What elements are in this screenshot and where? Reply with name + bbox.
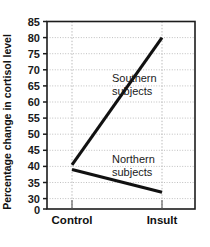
southern-label-line1: Southern	[112, 72, 157, 84]
xtick-label-insult: Insult	[147, 214, 178, 226]
ytick-label-45: 45	[28, 144, 40, 156]
ytick-label-75: 75	[28, 48, 40, 60]
ytick-label-70: 70	[28, 64, 40, 76]
northern-label-line1: Northern	[112, 153, 155, 165]
southern-subjects-annotation: Southern subjects	[112, 72, 157, 97]
ytick-label-40: 40	[28, 160, 40, 172]
ytick-label-zero: 0	[34, 204, 40, 216]
cortisol-line-chart: Percentage change in cortisol level	[0, 0, 210, 247]
ytick-label-65: 65	[28, 80, 40, 92]
ytick-label-85: 85	[28, 16, 40, 28]
ytick-label-55: 55	[28, 112, 40, 124]
ytick-label-60: 60	[28, 96, 40, 108]
ytick-label-50: 50	[28, 128, 40, 140]
xtick-label-control: Control	[52, 214, 93, 226]
chart-svg: Percentage change in cortisol level	[0, 0, 210, 247]
northern-subjects-annotation: Northern subjects	[112, 153, 155, 178]
ytick-label-80: 80	[28, 32, 40, 44]
southern-label-line2: subjects	[112, 85, 153, 97]
ytick-label-35: 35	[28, 177, 40, 189]
northern-label-line2: subjects	[112, 166, 153, 178]
y-axis-title: Percentage change in cortisol level	[1, 34, 13, 210]
